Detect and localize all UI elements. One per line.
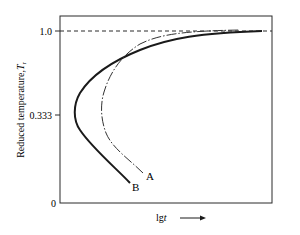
y-axis-title: Reduced temperature,Tr [15,62,28,158]
ytick-label-1: 1.0 [40,26,53,37]
svg-text:Reduced temperature,Tr: Reduced temperature,Tr [15,62,28,158]
y-axis-title-subscript: r [20,62,28,65]
x-axis-title: lgt [156,212,167,223]
plot-frame [60,16,272,203]
curve-a [102,30,240,173]
y-axis-title-text: Reduced temperature, [15,70,26,158]
curve-a-label: A [146,170,154,182]
ytick-label-0: 0 [51,198,56,209]
curve-b [75,31,262,183]
x-axis-title-text: lg [156,212,164,223]
chart: A B 1.0 0.333 0 Reduced temperature,Tr l… [0,0,300,235]
curve-b-label: B [132,181,139,193]
ytick-label-0333: 0.333 [30,110,53,121]
x-axis-arrow-icon [200,216,206,221]
x-axis-title-italic: t [164,212,167,223]
